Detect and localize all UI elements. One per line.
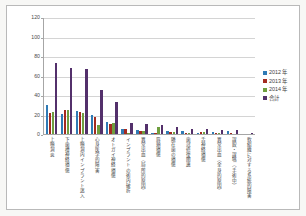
- x-axis-label-text: 異常出血（全身的原因）: [215, 137, 220, 193]
- x-axis-label-text: 隣在歯の損傷: [169, 137, 174, 168]
- bar-group: [210, 18, 225, 134]
- x-axis-label: 下歯槽神経損傷: [58, 137, 73, 216]
- bar: [52, 112, 54, 134]
- x-axis-label: 隣在歯の損傷: [164, 137, 179, 216]
- legend-item[interactable]: 2012 年: [263, 70, 306, 75]
- bar: [185, 133, 187, 134]
- bar: [79, 112, 81, 134]
- y-axis-tick-label: 80: [16, 54, 40, 59]
- bar: [203, 132, 205, 134]
- bar: [154, 133, 156, 134]
- y-axis-tick-label: 0: [16, 132, 40, 137]
- legend-item-label: 2013 年: [269, 79, 288, 84]
- bar-group: [180, 18, 195, 134]
- bar: [130, 123, 132, 134]
- legend-item[interactable]: 合計: [263, 96, 306, 101]
- plot-area: [43, 18, 255, 135]
- x-axis-label-text: 唇頬損傷: [154, 137, 159, 157]
- x-axis-label: オトガイ神経損傷: [104, 137, 119, 216]
- legend-swatch-icon: [263, 79, 267, 83]
- y-axis-tick: [41, 77, 43, 78]
- x-axis-label: 上顎洞炎: [43, 137, 58, 216]
- bar: [121, 129, 123, 134]
- bar: [227, 131, 229, 134]
- y-axis-tick: [41, 116, 43, 117]
- bar: [157, 127, 159, 134]
- bar: [97, 125, 99, 134]
- bar: [218, 133, 220, 134]
- bar: [136, 130, 138, 134]
- x-axis-label-text: 異常出血（局所的原因）: [139, 137, 144, 193]
- bar: [236, 130, 238, 134]
- y-axis-tick: [41, 38, 43, 39]
- legend-swatch-icon: [263, 88, 267, 92]
- bar: [197, 133, 199, 134]
- x-axis-label-text: 誤飲・誤嚥（手術中）: [230, 137, 235, 188]
- bar-group: [59, 18, 74, 134]
- x-axis-label-text: インプラントの術内破折: [124, 137, 129, 193]
- bar: [94, 117, 96, 134]
- bar-group: [119, 18, 134, 134]
- bar-group: [74, 18, 89, 134]
- bar: [127, 133, 129, 134]
- y-axis-tick-label: 100: [16, 35, 40, 40]
- y-axis-tick: [41, 18, 43, 19]
- x-axis-label: 異常出血（局所的原因）: [134, 137, 149, 216]
- x-axis-label-text: 心身医学的障害: [94, 137, 99, 173]
- bar-group: [225, 18, 240, 134]
- bar: [212, 132, 214, 134]
- bar: [64, 110, 66, 134]
- bar: [215, 133, 217, 134]
- x-axis-label: 舌神経損傷: [194, 137, 209, 216]
- bar: [230, 133, 232, 134]
- x-axis-label-text: 上顎洞炎: [48, 137, 53, 157]
- bar: [251, 133, 253, 134]
- bar: [55, 63, 57, 134]
- legend-swatch-icon: [263, 71, 267, 75]
- bar: [82, 113, 84, 134]
- y-axis-tick-label: 20: [16, 113, 40, 118]
- y-axis-tick-label: 40: [16, 93, 40, 98]
- legend-item-label: 合計: [269, 96, 279, 101]
- x-axis-label: 唇頬損傷: [149, 137, 164, 216]
- bar: [76, 111, 78, 134]
- y-axis-tick: [41, 57, 43, 58]
- bar: [85, 69, 87, 134]
- bar: [61, 114, 63, 134]
- bar: [161, 125, 163, 134]
- bar-group: [89, 18, 104, 134]
- bar: [46, 105, 48, 134]
- x-axis-labels: 上顎洞炎下歯槽神経損傷上顎洞内インプラント迷入心身医学的障害オトガイ神経損傷イン…: [43, 137, 255, 216]
- x-axis-label-text: 歯冠修復関連: [184, 137, 189, 168]
- bar: [70, 68, 72, 134]
- bar-group: [240, 18, 255, 134]
- x-axis-label: 誤飲・誤嚥（手術中）: [225, 137, 240, 216]
- legend-item[interactable]: 2013 年: [263, 79, 306, 84]
- bar-group: [165, 18, 180, 134]
- bar: [206, 129, 208, 134]
- bar-group: [104, 18, 119, 134]
- bar: [109, 124, 111, 134]
- x-axis-label-text: 舌神経損傷: [200, 137, 205, 163]
- legend-item[interactable]: 2014 年: [263, 87, 306, 92]
- chart-legend: 2012 年2013 年2014 年合計: [263, 70, 306, 104]
- bar: [173, 132, 175, 134]
- bar: [169, 132, 171, 134]
- x-axis-label: 上顎洞内インプラント迷入: [73, 137, 88, 216]
- x-axis-label: 軟組織に対する系統的障害: [240, 137, 255, 216]
- bar: [176, 127, 178, 134]
- bar: [139, 131, 141, 134]
- bar: [191, 129, 193, 134]
- x-axis-label: 異常出血（全身的原因）: [210, 137, 225, 216]
- bar: [124, 129, 126, 134]
- x-axis-label: インプラントの術内破折: [119, 137, 134, 216]
- x-axis-label-text: 下歯槽神経損傷: [63, 137, 68, 173]
- x-axis-label: 心身医学的障害: [88, 137, 103, 216]
- legend-item-label: 2012 年: [269, 70, 288, 75]
- bar: [151, 133, 153, 134]
- bar-group: [150, 18, 165, 134]
- bar: [91, 115, 93, 134]
- bar: [49, 113, 51, 134]
- bar: [166, 131, 168, 134]
- legend-item-label: 2014 年: [269, 87, 288, 92]
